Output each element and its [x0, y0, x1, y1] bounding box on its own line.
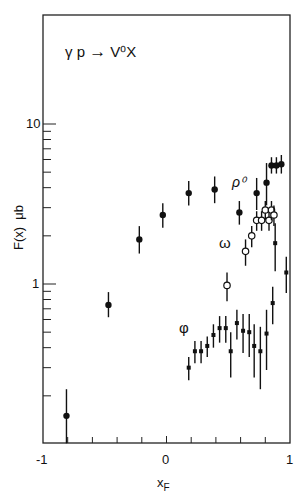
chart-title: γ p → V⁰X: [65, 42, 136, 62]
y-tick-10: 10: [26, 116, 40, 131]
x-tick-mid: 0: [162, 452, 169, 467]
x-tick-min: -1: [36, 452, 48, 467]
data-point-rho: [186, 190, 192, 196]
data-point-rho: [105, 302, 111, 308]
data-point-phi: [252, 344, 256, 348]
data-point-rho: [253, 190, 259, 196]
y-tick-1: 1: [32, 276, 39, 291]
data-point-rho: [160, 212, 166, 218]
data-point-phi: [247, 330, 251, 334]
data-point-rho: [278, 161, 284, 167]
data-point-phi: [218, 326, 222, 330]
series-label-phi: φ: [179, 319, 189, 336]
data-point-omega: [262, 207, 268, 213]
series-label-omega: ω: [219, 234, 231, 251]
data-point-phi: [235, 321, 239, 325]
x-tick-max: 1: [286, 452, 293, 467]
data-point-phi: [193, 349, 197, 353]
data-point-phi: [284, 270, 288, 274]
data-point-phi: [199, 349, 203, 353]
data-point-phi: [273, 241, 277, 245]
data-point-omega: [242, 248, 248, 254]
data-point-phi: [229, 349, 233, 353]
data-point-rho: [236, 209, 242, 215]
plot-frame: [43, 15, 290, 443]
data-point-rho: [63, 413, 69, 419]
data-point-omega: [224, 282, 230, 288]
data-point-phi: [241, 329, 245, 333]
data-point-omega: [271, 212, 277, 218]
x-axis-label: xF: [157, 475, 170, 493]
series-label-rho: ρ⁰: [232, 174, 246, 190]
data-point-phi: [271, 301, 275, 305]
data-point-phi: [187, 366, 191, 370]
data-point-phi: [265, 332, 269, 336]
data-point-rho: [211, 186, 217, 192]
chart-plot: [0, 0, 303, 497]
data-point-omega: [258, 217, 264, 223]
data-point-rho: [136, 236, 142, 242]
data-point-phi: [211, 333, 215, 337]
data-point-omega: [249, 233, 255, 239]
data-point-rho: [263, 179, 269, 185]
data-point-phi: [258, 349, 262, 353]
y-axis-label: F(x) μb: [11, 188, 26, 268]
data-point-phi: [224, 326, 228, 330]
data-point-phi: [205, 344, 209, 348]
